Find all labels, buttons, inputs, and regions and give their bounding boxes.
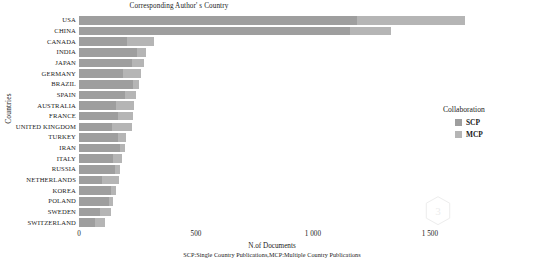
x-axis-title: N.of Documents <box>79 242 465 250</box>
y-tick-label: INDIA <box>0 48 76 55</box>
bar-segment-scp <box>79 208 100 217</box>
bar-segment-scp <box>79 112 118 121</box>
x-axis-tick-labels: 05001 0001 500 <box>79 230 465 242</box>
legend-title: Collaboration <box>443 105 533 114</box>
bar-netherlands <box>79 176 119 185</box>
legend-label: MCP <box>466 130 483 139</box>
chart-title: Corresponding Author' s Country <box>79 2 279 10</box>
bar-segment-mcp <box>118 112 133 121</box>
bar-china <box>79 27 391 36</box>
bar-segment-mcp <box>95 218 104 227</box>
bar-segment-mcp <box>118 133 126 142</box>
plot-area <box>79 15 465 228</box>
bar-usa <box>79 16 465 25</box>
y-tick-label: SPAIN <box>0 91 76 98</box>
bar-segment-scp <box>79 37 127 46</box>
bar-segment-scp <box>79 165 115 174</box>
bar-segment-scp <box>79 48 137 57</box>
y-tick-label: FRANCE <box>0 112 76 119</box>
bar-sweden <box>79 208 111 217</box>
bar-segment-mcp <box>112 123 132 132</box>
bar-segment-mcp <box>137 48 145 57</box>
y-tick-label: ITALY <box>0 155 76 162</box>
x-tick-label: 1 500 <box>422 230 438 238</box>
y-tick-label: USA <box>0 16 76 23</box>
bar-brazil <box>79 80 139 89</box>
bar-spain <box>79 91 136 100</box>
y-tick-label: IRAN <box>0 144 76 151</box>
y-tick-label: SWEDEN <box>0 208 76 215</box>
y-tick-label: JAPAN <box>0 59 76 66</box>
bar-iran <box>79 144 125 153</box>
bar-segment-mcp <box>125 91 137 100</box>
bar-segment-scp <box>79 91 125 100</box>
legend: Collaboration SCPMCP <box>443 105 533 142</box>
bar-japan <box>79 59 144 68</box>
y-tick-label: CHINA <box>0 27 76 34</box>
x-tick-label: 0 <box>77 230 81 238</box>
legend-items: SCPMCP <box>443 118 533 139</box>
y-tick-label: NETHERLANDS <box>0 176 76 183</box>
bar-segment-mcp <box>127 37 154 46</box>
bar-segment-mcp <box>113 154 122 163</box>
bar-segment-mcp <box>357 16 465 25</box>
bar-turkey <box>79 133 126 142</box>
bar-segment-mcp <box>120 144 125 153</box>
bar-segment-scp <box>79 133 118 142</box>
y-tick-label: KOREA <box>0 187 76 194</box>
bar-segment-scp <box>79 176 102 185</box>
legend-swatch-scp-icon <box>455 119 462 126</box>
bar-segment-mcp <box>116 101 134 110</box>
bar-segment-scp <box>79 123 112 132</box>
bar-segment-mcp <box>109 197 113 206</box>
bar-france <box>79 112 133 121</box>
bar-poland <box>79 197 113 206</box>
bar-united-kingdom <box>79 123 132 132</box>
y-tick-label: CANADA <box>0 38 76 45</box>
bar-switzerland <box>79 218 105 227</box>
bar-india <box>79 48 146 57</box>
svg-text:3: 3 <box>435 205 441 217</box>
bar-canada <box>79 37 154 46</box>
bar-segment-scp <box>79 218 95 227</box>
watermark-logo-icon: 3 <box>425 196 451 226</box>
legend-item-scp[interactable]: SCP <box>455 118 533 127</box>
y-tick-label: BRAZIL <box>0 80 76 87</box>
y-tick-label: SWITZERLAND <box>0 219 76 226</box>
x-axis-caption: SCP:Single Country Publications,MCP:Mult… <box>79 251 465 258</box>
bar-segment-scp <box>79 154 113 163</box>
y-tick-label: UNITED KINGDOM <box>0 123 76 130</box>
y-tick-label: AUSTRALIA <box>0 102 76 109</box>
bar-segment-scp <box>79 101 116 110</box>
y-tick-label: POLAND <box>0 197 76 204</box>
bar-segment-mcp <box>111 186 117 195</box>
bar-segment-scp <box>79 186 111 195</box>
bar-germany <box>79 69 141 78</box>
bar-segment-scp <box>79 16 357 25</box>
bar-korea <box>79 186 116 195</box>
bar-segment-mcp <box>100 208 111 217</box>
bar-australia <box>79 101 134 110</box>
y-tick-label: TURKEY <box>0 133 76 140</box>
chart-figure: Corresponding Author' s Country Countrie… <box>0 0 533 265</box>
bar-segment-scp <box>79 69 123 78</box>
bar-segment-scp <box>79 80 133 89</box>
x-tick-label: 1 000 <box>305 230 321 238</box>
bar-segment-scp <box>79 27 350 36</box>
legend-swatch-mcp-icon <box>455 131 462 138</box>
bar-segment-scp <box>79 144 120 153</box>
legend-item-mcp[interactable]: MCP <box>455 130 533 139</box>
y-tick-label: GERMANY <box>0 70 76 77</box>
bar-segment-mcp <box>133 80 139 89</box>
bar-italy <box>79 154 122 163</box>
bar-russia <box>79 165 120 174</box>
bar-segment-scp <box>79 197 109 206</box>
bar-segment-mcp <box>102 176 118 185</box>
bar-segment-mcp <box>115 165 120 174</box>
bar-segment-mcp <box>123 69 141 78</box>
bar-segment-mcp <box>132 59 145 68</box>
bar-segment-mcp <box>350 27 391 36</box>
x-tick-label: 500 <box>191 230 202 238</box>
y-axis-tick-labels: USACHINACANADAINDIAJAPANGERMANYBRAZILSPA… <box>0 15 76 228</box>
y-tick-label: RUSSIA <box>0 165 76 172</box>
